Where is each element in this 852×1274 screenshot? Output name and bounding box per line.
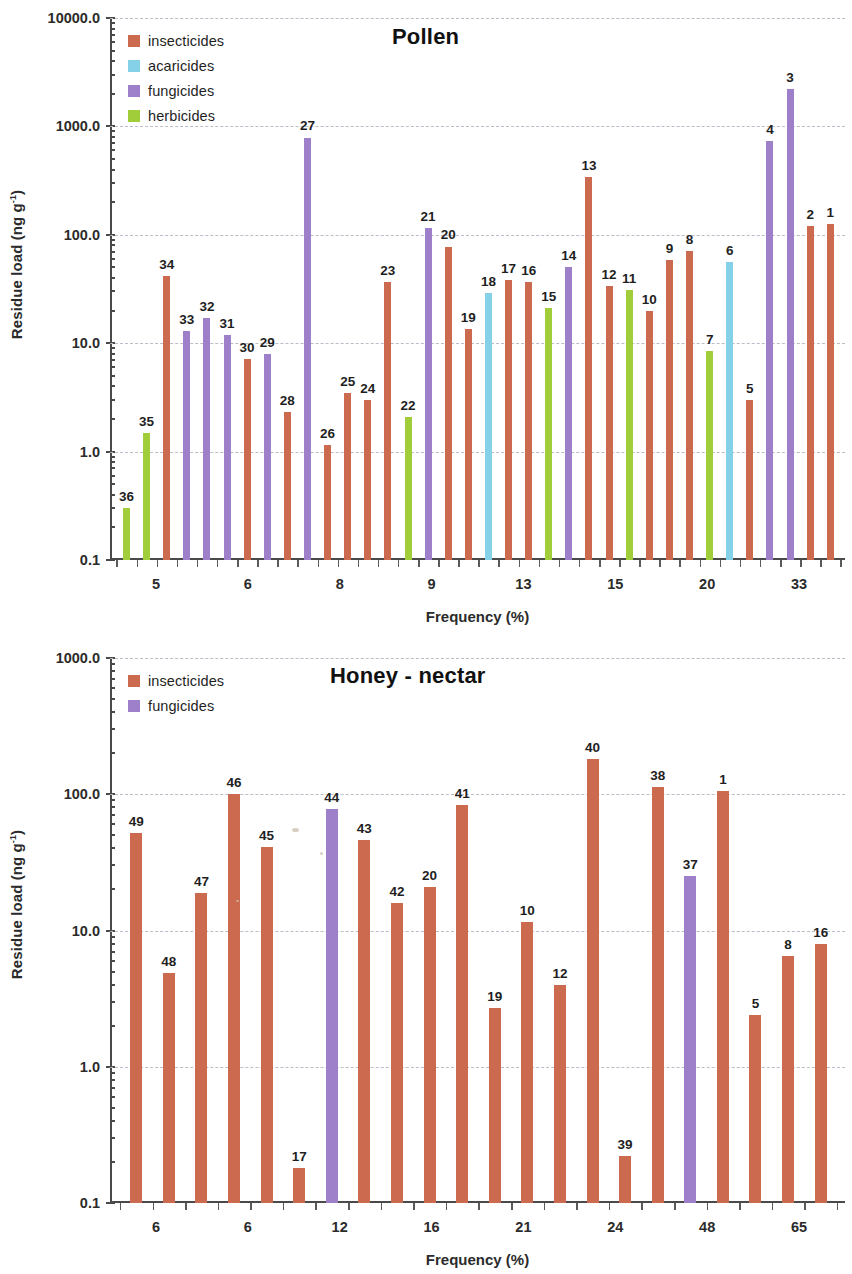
x-axis-tick-mark bbox=[478, 560, 480, 567]
legend-color-swatch-icon bbox=[128, 675, 140, 687]
bar-value-label: 34 bbox=[159, 257, 174, 272]
bar bbox=[384, 282, 391, 560]
bar bbox=[228, 794, 240, 1203]
x-axis-tick-mark bbox=[544, 1203, 546, 1210]
bar bbox=[666, 260, 673, 560]
bar-value-label: 19 bbox=[461, 310, 476, 325]
bar-value-label: 25 bbox=[340, 374, 355, 389]
bar-value-label: 22 bbox=[400, 398, 415, 413]
x-axis-tick-mark bbox=[398, 560, 400, 567]
gridline bbox=[110, 794, 845, 795]
legend-item[interactable]: fungicides bbox=[128, 693, 224, 718]
bar-value-label: 14 bbox=[561, 248, 576, 263]
legend-item[interactable]: acaricides bbox=[128, 53, 224, 78]
x-axis-tick-mark bbox=[381, 1203, 383, 1210]
bar bbox=[619, 1156, 631, 1203]
bar bbox=[284, 412, 291, 560]
x-axis-tick-label: 24 bbox=[607, 1219, 623, 1235]
bar-value-label: 3 bbox=[786, 70, 794, 85]
bar-value-label: 7 bbox=[706, 332, 714, 347]
bar-value-label: 29 bbox=[260, 335, 275, 350]
x-axis-tick-mark bbox=[576, 1203, 578, 1210]
y-axis-tick-label: 0.1 bbox=[14, 1195, 100, 1211]
bar bbox=[405, 417, 412, 560]
x-axis-tick-mark bbox=[116, 560, 118, 567]
legend-item[interactable]: fungicides bbox=[128, 78, 224, 103]
x-axis-tick-mark bbox=[579, 560, 581, 567]
bar bbox=[652, 787, 664, 1203]
legend-label: fungicides bbox=[148, 698, 214, 714]
x-axis-tick-label: 12 bbox=[332, 1219, 348, 1235]
legend-label: fungicides bbox=[148, 83, 214, 99]
bar-value-label: 33 bbox=[179, 312, 194, 327]
bar bbox=[261, 847, 273, 1203]
y-axis-tick-label: 1000.0 bbox=[14, 118, 100, 134]
y-axis-title: Residue load (ng g-1) bbox=[8, 830, 25, 979]
x-axis-tick-mark bbox=[619, 560, 621, 567]
legend-color-swatch-icon bbox=[128, 35, 140, 47]
bar-value-label: 40 bbox=[585, 740, 600, 755]
bar bbox=[195, 893, 207, 1203]
bar bbox=[706, 351, 713, 560]
x-axis-tick-label: 21 bbox=[515, 1219, 531, 1235]
bar bbox=[505, 280, 512, 560]
bar bbox=[293, 1168, 305, 1203]
chart-title-pollen: Pollen bbox=[392, 24, 459, 50]
bar-value-label: 15 bbox=[541, 289, 556, 304]
x-axis-tick-mark bbox=[707, 1203, 709, 1210]
x-axis-tick-mark bbox=[297, 560, 299, 567]
bar bbox=[489, 1008, 501, 1203]
bar bbox=[766, 141, 773, 560]
gridline bbox=[110, 343, 845, 344]
bar-value-label: 26 bbox=[320, 426, 335, 441]
x-axis-tick-mark bbox=[438, 560, 440, 567]
y-axis-tick-label: 100.0 bbox=[14, 786, 100, 802]
bar bbox=[646, 311, 653, 560]
x-axis-tick-mark bbox=[740, 560, 742, 567]
legend-item[interactable]: insecticides bbox=[128, 28, 224, 53]
x-axis-tick-mark bbox=[378, 560, 380, 567]
x-axis-tick-mark bbox=[772, 1203, 774, 1210]
bar-value-label: 16 bbox=[813, 925, 828, 940]
bar-value-label: 35 bbox=[139, 414, 154, 429]
chart-panel-honey-nectar: Residue load (ng g-1) 0.11.010.0100.0100… bbox=[0, 640, 852, 1274]
scan-artifact bbox=[320, 852, 323, 855]
legend-item[interactable]: insecticides bbox=[128, 668, 224, 693]
scan-artifact bbox=[236, 900, 239, 902]
x-axis-tick-mark bbox=[800, 560, 802, 567]
x-axis-tick-label: 6 bbox=[244, 1219, 252, 1235]
legend-pollen: insecticidesacaricidesfungicidesherbicid… bbox=[128, 28, 224, 128]
y-axis-tick-label: 1.0 bbox=[14, 1059, 100, 1075]
bar-value-label: 41 bbox=[455, 786, 470, 801]
x-axis-tick-mark bbox=[318, 560, 320, 567]
x-axis-tick-label: 48 bbox=[699, 1219, 715, 1235]
bar-value-label: 13 bbox=[581, 158, 596, 173]
bar bbox=[130, 833, 142, 1203]
bar bbox=[726, 262, 733, 560]
bar-value-label: 43 bbox=[357, 821, 372, 836]
x-axis-tick-mark bbox=[511, 1203, 513, 1210]
x-axis-title: Frequency (%) bbox=[110, 1251, 845, 1268]
bar bbox=[264, 354, 271, 560]
x-axis-tick-mark bbox=[840, 560, 842, 567]
bar-value-label: 10 bbox=[642, 292, 657, 307]
y-axis-tick-label: 10000.0 bbox=[14, 10, 100, 26]
chart-panel-pollen: Residue load (ng g-1) 0.11.010.0100.0100… bbox=[0, 0, 852, 625]
y-axis-tick-label: 0.1 bbox=[14, 552, 100, 568]
x-axis-tick-label: 33 bbox=[791, 576, 807, 592]
bar bbox=[324, 445, 331, 560]
bar bbox=[224, 335, 231, 560]
x-axis-tick-label: 8 bbox=[336, 576, 344, 592]
x-axis-tick-mark bbox=[720, 560, 722, 567]
bar bbox=[554, 985, 566, 1203]
bar bbox=[717, 791, 729, 1203]
x-axis-tick-label: 20 bbox=[699, 576, 715, 592]
bar-value-label: 6 bbox=[726, 243, 734, 258]
bar-value-label: 12 bbox=[602, 267, 617, 282]
legend-item[interactable]: herbicides bbox=[128, 103, 224, 128]
bar bbox=[244, 359, 251, 560]
bar-value-label: 19 bbox=[487, 989, 502, 1004]
x-axis-tick-mark bbox=[519, 560, 521, 567]
legend-color-swatch-icon bbox=[128, 110, 140, 122]
chart-title-honey-nectar: Honey - nectar bbox=[330, 663, 486, 689]
